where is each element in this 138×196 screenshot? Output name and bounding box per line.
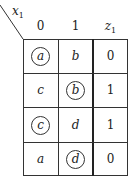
table-cell: b <box>58 73 93 107</box>
output-cell: 0 <box>93 39 128 73</box>
stable-state-circle: b <box>66 81 85 100</box>
table-cell: b <box>58 39 93 73</box>
table-cell: c <box>23 108 58 142</box>
output-cell: 1 <box>93 73 128 107</box>
column-header-0: 0 <box>23 19 58 33</box>
state-table: a b 0 c b 1 c d 1 a d 0 <box>23 39 128 176</box>
column-header-output: z1 <box>93 19 128 38</box>
stable-state-circle: d <box>66 150 85 169</box>
table-cell: d <box>58 108 93 142</box>
table-cell: d <box>58 142 93 176</box>
column-header-1: 1 <box>58 19 93 33</box>
table-cell: a <box>23 39 58 73</box>
table-cell: c <box>23 73 58 107</box>
table-cell: a <box>23 142 58 176</box>
output-cell: 1 <box>93 108 128 142</box>
output-cell: 0 <box>93 142 128 176</box>
stable-state-circle: a <box>31 47 50 66</box>
stable-state-circle: c <box>31 116 50 135</box>
